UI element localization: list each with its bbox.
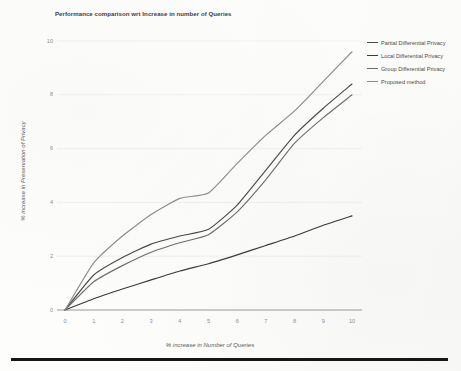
legend-item-label: Partial Differential Privacy: [381, 40, 446, 46]
page-edge-bar: [11, 358, 448, 361]
legend-line-swatch-icon: [367, 42, 378, 43]
x-tick-label: 5: [202, 318, 216, 324]
y-tick-label: 10: [39, 38, 53, 44]
legend-item-label: Local Differential Privacy: [381, 53, 443, 59]
series-line-3: [65, 52, 352, 310]
x-axis-title: % increase in Number of Queries: [60, 342, 360, 348]
legend-item-0[interactable]: Partial Differential Privacy: [367, 36, 446, 49]
legend-item-1[interactable]: Local Differential Privacy: [367, 49, 446, 62]
x-tick-label: 4: [173, 318, 187, 324]
y-tick-label: 2: [39, 253, 53, 259]
y-tick-label: 0: [39, 307, 53, 313]
gridlines-group: [57, 41, 362, 310]
series-line-0: [65, 84, 352, 310]
y-tick-label: 8: [39, 91, 53, 97]
x-tick-label: 10: [345, 318, 359, 324]
x-tick-label: 1: [87, 318, 101, 324]
legend-line-swatch-icon: [367, 55, 378, 56]
legend-item-2[interactable]: Group Differential Privacy: [367, 62, 446, 75]
x-tick-label: 9: [316, 318, 330, 324]
x-tick-label: 3: [144, 318, 158, 324]
legend-item-3[interactable]: Proposed method: [367, 75, 446, 88]
legend-item-label: Proposed method: [381, 79, 425, 85]
y-axis-title: % increase in Preservation of Privacy: [20, 86, 26, 256]
series-line-1: [65, 216, 352, 310]
legend-line-swatch-icon: [367, 68, 378, 69]
x-tick-label: 6: [230, 318, 244, 324]
legend-line-swatch-icon: [367, 81, 378, 82]
y-tick-label: 4: [39, 199, 53, 205]
y-tick-label: 6: [39, 145, 53, 151]
legend-item-label: Group Differential Privacy: [381, 66, 445, 72]
x-tick-label: 0: [58, 318, 72, 324]
series-lines-group: [65, 52, 352, 310]
chart-legend: Partial Differential PrivacyLocal Differ…: [367, 36, 446, 88]
x-tick-label: 2: [115, 318, 129, 324]
x-tick-label: 8: [288, 318, 302, 324]
x-tick-label: 7: [259, 318, 273, 324]
